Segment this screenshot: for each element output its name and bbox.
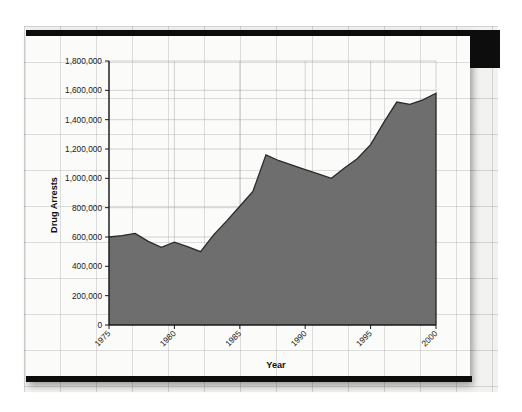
x-tick-label: 1975 <box>92 328 112 348</box>
x-tick-label: 1990 <box>288 328 308 348</box>
y-tick-label: 600,000 <box>72 232 102 242</box>
figure-card: 0200,000400,000600,000800,0001,000,0001,… <box>26 30 470 382</box>
chart-plot-area: 0200,000400,000600,000800,0001,000,0001,… <box>26 30 470 382</box>
x-axis-title: Year <box>266 360 286 370</box>
y-tick-label: 400,000 <box>72 261 102 271</box>
y-tick-label: 1,400,000 <box>65 115 102 125</box>
y-tick-label: 800,000 <box>72 203 102 213</box>
scan-edge-band-top <box>26 30 470 36</box>
y-tick-label: 1,200,000 <box>65 144 102 154</box>
y-tick-label: 1,800,000 <box>65 56 102 66</box>
scan-edge-band-right <box>470 30 500 68</box>
x-tick-label: 1985 <box>223 328 243 348</box>
x-tick-label: 1980 <box>158 328 178 348</box>
y-tick-label: 1,600,000 <box>65 85 102 95</box>
y-tick-label: 0 <box>97 320 102 330</box>
y-tick-label: 200,000 <box>72 291 102 301</box>
y-axis-title: Drug Arrests <box>49 177 59 233</box>
scanned-page: 0200,000400,000600,000800,0001,000,0001,… <box>0 0 522 412</box>
scan-edge-band-bottom <box>26 376 472 382</box>
x-axis-ticks: 197519801985199019952000 <box>92 325 439 348</box>
x-tick-label: 1995 <box>354 328 374 348</box>
x-tick-label: 2000 <box>419 328 439 348</box>
y-axis-ticks: 0200,000400,000600,000800,0001,000,0001,… <box>65 56 109 330</box>
area-chart-svg: 0200,000400,000600,000800,0001,000,0001,… <box>26 30 470 382</box>
drug-arrests-area-fill <box>109 93 436 325</box>
y-tick-label: 1,000,000 <box>65 173 102 183</box>
